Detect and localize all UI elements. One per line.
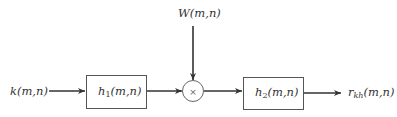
- block-h2: h2(m,n): [244, 78, 304, 110]
- multiplier-node: ×: [183, 81, 204, 102]
- input-label: k(m,n): [10, 84, 48, 98]
- block-h2-label: h2(m,n): [255, 85, 298, 100]
- multiply-icon: ×: [189, 87, 197, 97]
- block-h1-label: h1(m,n): [98, 84, 141, 99]
- block-h1: h1(m,n): [87, 76, 147, 109]
- block-diagram: k(m,n) h1(m,n) W(m,n) × h2(m,n) rkh(m,n): [0, 0, 397, 117]
- output-label: rkh(m,n): [348, 85, 394, 100]
- weight-label: W(m,n): [178, 6, 221, 20]
